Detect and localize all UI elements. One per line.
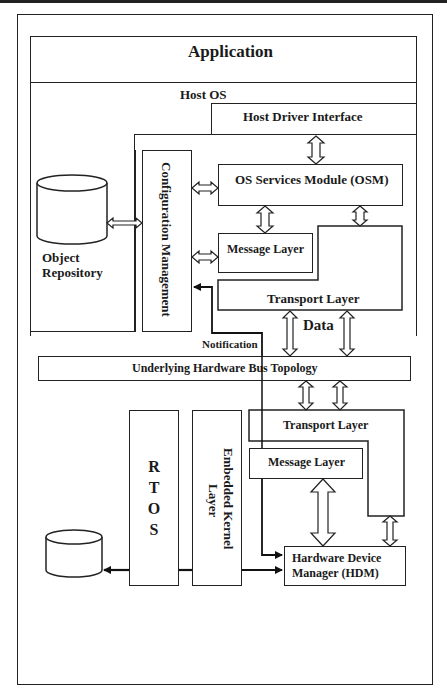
object-repository-box	[30, 150, 136, 332]
host-software-enclosure	[134, 134, 214, 135]
embedded-kernel-label-2: Layer	[205, 484, 221, 517]
data-label: Data	[303, 317, 334, 334]
host-driver-interface-label: Host Driver Interface	[243, 109, 363, 125]
application-label: Application	[188, 42, 273, 62]
object-repository-label-2: Repository	[42, 265, 103, 281]
configuration-management-label: Configuration Management	[158, 162, 174, 317]
hdm-label-1: Hardware Device	[292, 551, 381, 566]
object-repository-label-1: Object	[42, 250, 80, 266]
host-os-label: Host OS	[180, 87, 227, 103]
hdm-label-2: Manager (HDM)	[292, 566, 379, 581]
top-rule	[0, 0, 447, 3]
bus-topology-label: Underlying Hardware Bus Topology	[132, 361, 317, 376]
notification-label: Notification	[202, 338, 258, 350]
embedded-message-layer-label: Message Layer	[268, 455, 345, 470]
application-divider	[30, 82, 417, 83]
host-transport-layer-label: Transport Layer	[267, 291, 360, 307]
embedded-kernel-label-1: Embedded Kernel	[220, 448, 236, 549]
embedded-transport-layer-label: Transport Layer	[283, 418, 368, 433]
rtos-label: RTOS	[144, 456, 164, 540]
osm-label: OS Services Module (OSM)	[235, 172, 388, 188]
host-message-layer-label: Message Layer	[227, 242, 304, 257]
